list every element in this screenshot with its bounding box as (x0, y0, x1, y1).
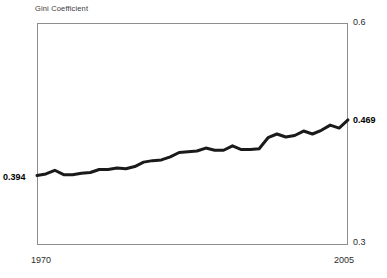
y-axis-min-tick: 0.3 (353, 237, 366, 247)
x-axis-start-tick: 1970 (31, 255, 51, 265)
gini-series-line (37, 120, 348, 176)
x-axis-end-tick: 2005 (334, 255, 354, 265)
axis-title: Gini Coefficient (35, 4, 88, 13)
start-value-annotation: 0.394 (3, 172, 26, 182)
gini-coefficient-chart: Gini Coefficient 0.6 0.3 1970 2005 0.394… (0, 0, 387, 278)
y-axis-max-tick: 0.6 (353, 17, 366, 27)
end-value-annotation: 0.469 (353, 115, 376, 125)
plot-area (37, 23, 348, 245)
